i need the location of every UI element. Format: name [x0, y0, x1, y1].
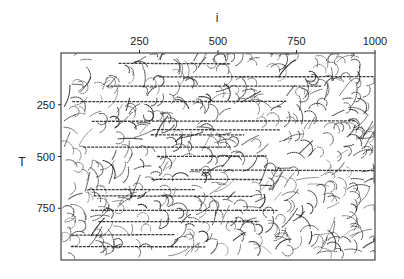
trajectory-stroke [275, 192, 282, 201]
trajectory-stroke [243, 207, 261, 208]
trajectory-stroke [124, 141, 129, 158]
trajectory-stroke [86, 192, 93, 200]
trajectory-stroke [186, 79, 198, 86]
trajectory-stroke [205, 102, 209, 114]
trajectory-stroke [116, 132, 124, 144]
trajectory-stroke [308, 190, 317, 207]
trajectory-stroke [340, 80, 352, 95]
trajectory-stroke [226, 222, 235, 231]
x-tick-label: 500 [209, 35, 227, 47]
trajectory-stroke [200, 193, 205, 205]
trajectory-stroke [161, 195, 168, 206]
trajectory-stroke [319, 233, 328, 234]
trajectory-stroke [283, 245, 294, 256]
trajectory-stroke [326, 54, 332, 61]
y-tick-label: 750 [37, 202, 55, 214]
trajectory-stroke [248, 78, 257, 86]
trajectory-stroke [139, 204, 147, 208]
trajectory-stroke [64, 132, 70, 147]
trajectory-stroke [317, 147, 324, 157]
trajectory-stroke [194, 197, 202, 211]
trajectory-stroke [287, 152, 304, 158]
x-tick-label: 250 [130, 35, 148, 47]
trajectory-stroke [309, 231, 312, 243]
y-tick-label: 250 [37, 99, 55, 111]
trajectory-stroke [242, 135, 259, 145]
trajectory-stroke [354, 117, 367, 128]
trajectory-stroke [220, 108, 231, 114]
trajectory-stroke [270, 54, 281, 60]
trajectory-stroke [151, 172, 160, 174]
trajectory-stroke [141, 244, 152, 249]
trajectory-stroke [130, 67, 133, 75]
trajectory-stroke [65, 216, 76, 222]
trajectory-stroke [276, 215, 285, 224]
trajectory-stroke [349, 109, 358, 113]
trajectory-stroke [324, 249, 332, 259]
trajectory-stroke [63, 227, 71, 242]
trajectory-stroke [291, 167, 299, 175]
trajectory-stroke [345, 229, 356, 235]
trajectory-stroke [255, 191, 261, 198]
trajectory-stroke [311, 236, 318, 246]
trajectory-stroke [342, 237, 351, 243]
trajectory-stroke [64, 127, 78, 134]
trajectory-stroke [131, 122, 136, 129]
trajectory-stroke [119, 198, 130, 200]
trajectory-stroke [334, 123, 344, 132]
trajectory-stroke [135, 246, 140, 257]
trajectory-stroke [95, 82, 105, 85]
trajectory-stroke [202, 147, 212, 163]
trajectory-stroke [150, 54, 157, 57]
trajectory-stroke [173, 81, 179, 96]
trajectory-stroke [211, 197, 217, 215]
trajectory-stroke [79, 129, 92, 145]
trajectory-stroke [134, 166, 151, 169]
trajectory-stroke [337, 56, 359, 62]
trajectory-stroke [293, 237, 302, 250]
trajectory-stroke [156, 116, 168, 137]
trajectory-stroke [253, 244, 271, 254]
trajectory-stroke [363, 239, 374, 248]
trajectory-stroke [198, 57, 206, 67]
trajectory-stroke [370, 236, 374, 241]
trajectory-stroke [73, 148, 81, 160]
trajectory-stroke [210, 104, 218, 121]
trajectory-stroke [144, 111, 154, 121]
trajectory-stroke [132, 224, 133, 233]
trajectory-stroke [305, 80, 308, 96]
trajectory-stroke [223, 200, 232, 203]
trajectory-stroke [125, 65, 129, 72]
trajectory-stroke [171, 239, 179, 247]
trajectory-stroke [104, 196, 106, 206]
trajectory-stroke [297, 215, 311, 229]
trajectory-stroke [175, 226, 186, 240]
trajectory-stroke [75, 96, 88, 105]
trajectory-stroke [184, 234, 192, 237]
trajectory-stroke [317, 184, 326, 191]
horizontal-streak [191, 170, 375, 171]
trajectory-stroke [134, 124, 146, 128]
trajectory-stroke [203, 223, 210, 232]
trajectory-stroke [228, 192, 235, 199]
trajectory-stroke [285, 189, 298, 200]
trajectory-stroke [158, 94, 164, 106]
trajectory-stroke [290, 178, 297, 191]
trajectory-stroke [66, 160, 77, 167]
trajectory-stroke [98, 113, 107, 124]
trajectory-stroke [92, 192, 101, 202]
trajectory-stroke [364, 205, 374, 211]
trajectory-stroke [181, 64, 183, 77]
trajectory-stroke [113, 201, 124, 202]
trajectory-stroke [343, 187, 345, 197]
trajectory-stroke [309, 75, 318, 85]
trajectory-stroke [296, 178, 318, 180]
trajectory-stroke [249, 242, 261, 256]
trajectory-stroke [212, 211, 215, 225]
trajectory-stroke [66, 218, 76, 228]
trajectory-stroke [189, 217, 200, 220]
trajectory-stroke [260, 194, 265, 208]
trajectory-stroke [147, 87, 156, 96]
trajectory-stroke [287, 85, 295, 95]
trajectory-stroke [343, 98, 353, 99]
